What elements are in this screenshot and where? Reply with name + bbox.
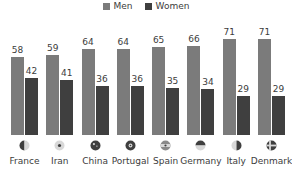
country-label: Denmark: [251, 156, 292, 167]
bar-men-denmark[interactable]: 71: [258, 16, 271, 135]
flag-icon-china: [90, 136, 101, 155]
bar-rect[interactable]: [223, 39, 236, 135]
bar-rect[interactable]: [152, 47, 165, 135]
flag-icon-spain: [160, 136, 171, 155]
x-axis: France Iran China Portugal Spain Germany…: [10, 135, 286, 169]
axis-item-iran: Iran: [45, 135, 74, 169]
bar-rect[interactable]: [258, 39, 271, 135]
country-label: Iran: [51, 156, 69, 167]
bar-women-denmark[interactable]: 29: [272, 16, 285, 135]
bar-group: 6634: [186, 16, 215, 135]
flag-icon-portugal: [125, 136, 136, 155]
bar-women-france[interactable]: 42: [25, 16, 38, 135]
country-label: Italy: [226, 156, 246, 167]
bar-value-label: 71: [223, 28, 234, 37]
bar-women-china[interactable]: 36: [96, 16, 109, 135]
bar-value-label: 65: [153, 36, 164, 45]
legend-label-men: Men: [114, 2, 133, 11]
bar-group: 6535: [151, 16, 180, 135]
country-label: China: [82, 156, 108, 167]
bar-rect[interactable]: [82, 49, 95, 135]
axis-item-germany: Germany: [186, 135, 215, 169]
country-label: Portugal: [112, 156, 149, 167]
flag-icon-iran: [54, 136, 65, 155]
bar-value-label: 42: [26, 67, 37, 76]
bar-value-label: 66: [188, 35, 199, 44]
bar-value-label: 36: [96, 75, 107, 84]
bar-men-italy[interactable]: 71: [223, 16, 236, 135]
bar-rect[interactable]: [187, 46, 200, 135]
bar-value-label: 29: [237, 85, 248, 94]
bar-value-label: 35: [167, 77, 178, 86]
bar-men-iran[interactable]: 59: [46, 16, 59, 135]
square-swatch-icon: [103, 3, 110, 10]
bar-rect[interactable]: [166, 88, 179, 135]
bar-value-label: 41: [61, 69, 72, 78]
bar-value-label: 58: [12, 46, 23, 55]
bar-value-label: 59: [47, 44, 58, 53]
bar-rect[interactable]: [11, 57, 24, 135]
bar-value-label: 64: [82, 38, 93, 47]
bar-men-germany[interactable]: 66: [187, 16, 200, 135]
bar-rect[interactable]: [201, 89, 214, 135]
plot-area: 58425941643664366535663471297129: [10, 16, 286, 135]
bar-value-label: 29: [273, 85, 284, 94]
bar-value-label: 71: [259, 28, 270, 37]
chart-legend: Men Women: [0, 2, 292, 11]
bar-men-france[interactable]: 58: [11, 16, 24, 135]
bar-women-germany[interactable]: 34: [201, 16, 214, 135]
country-label: Germany: [180, 156, 221, 167]
bar-rect[interactable]: [25, 78, 38, 135]
bar-rect[interactable]: [117, 49, 130, 135]
bar-rect[interactable]: [46, 55, 59, 135]
axis-item-italy: Italy: [222, 135, 251, 169]
country-label: France: [10, 156, 40, 167]
legend-item-women[interactable]: Women: [145, 2, 190, 11]
legend-item-men[interactable]: Men: [103, 2, 133, 11]
flag-icon-italy: [231, 136, 242, 155]
bar-value-label: 34: [202, 78, 213, 87]
flag-icon-france: [19, 136, 30, 155]
country-label: Spain: [153, 156, 178, 167]
bar-men-china[interactable]: 64: [82, 16, 95, 135]
axis-item-denmark: Denmark: [257, 135, 286, 169]
bar-rect[interactable]: [237, 96, 250, 135]
bar-rect[interactable]: [131, 86, 144, 135]
bar-group: 7129: [222, 16, 251, 135]
square-swatch-icon: [145, 3, 152, 10]
bar-value-label: 64: [118, 38, 129, 47]
bar-group: 7129: [257, 16, 286, 135]
bar-women-iran[interactable]: 41: [60, 16, 73, 135]
bar-women-spain[interactable]: 35: [166, 16, 179, 135]
grouped-bar-chart: Men Women 584259416436643665356634712971…: [0, 0, 292, 169]
flag-icon-denmark: [266, 136, 277, 155]
bar-group: 6436: [116, 16, 145, 135]
bar-group: 6436: [81, 16, 110, 135]
axis-item-china: China: [81, 135, 110, 169]
bar-men-portugal[interactable]: 64: [117, 16, 130, 135]
bar-group: 5941: [45, 16, 74, 135]
flag-icon-germany: [195, 136, 206, 155]
bar-rect[interactable]: [60, 80, 73, 135]
bar-value-label: 36: [132, 75, 143, 84]
axis-item-spain: Spain: [151, 135, 180, 169]
axis-item-portugal: Portugal: [116, 135, 145, 169]
bar-rect[interactable]: [96, 86, 109, 135]
bar-rect[interactable]: [272, 96, 285, 135]
bar-men-spain[interactable]: 65: [152, 16, 165, 135]
bar-women-italy[interactable]: 29: [237, 16, 250, 135]
legend-label-women: Women: [156, 2, 190, 11]
bar-women-portugal[interactable]: 36: [131, 16, 144, 135]
axis-item-france: France: [10, 135, 39, 169]
bar-group: 5842: [10, 16, 39, 135]
